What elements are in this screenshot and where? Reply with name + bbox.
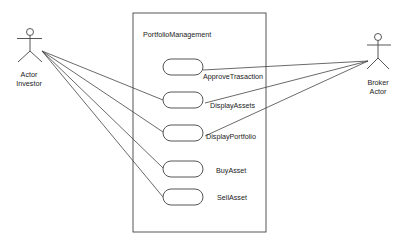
association-investor-display-assets (42, 51, 163, 100)
actor-broker-label-line2: Actor (370, 87, 387, 96)
actor-investor[interactable] (17, 29, 42, 63)
use-case-display-portfolio-shape (163, 125, 203, 141)
association-investor-buy (42, 51, 163, 168)
association-broker-display-assets (205, 61, 368, 103)
use-case-buy-label: BuyAsset (216, 166, 246, 175)
use-case-display-portfolio[interactable]: DisplayPortfolio (163, 125, 256, 141)
use-case-buy-shape (163, 161, 203, 177)
use-case-approve-shape (163, 59, 203, 75)
actor-broker[interactable] (367, 34, 391, 70)
use-case-display-assets-label: DisplayAssets (210, 101, 256, 110)
use-case-sell-shape (163, 189, 203, 205)
use-case-display-assets[interactable]: DisplayAssets (163, 92, 256, 110)
actor-broker-head-icon (375, 34, 382, 41)
actor-broker-label-line1: Broker (367, 78, 389, 87)
use-case-approve-label: ApproveTrasaction (203, 72, 263, 81)
association-investor-sell (42, 51, 163, 197)
use-case-buy[interactable]: BuyAsset (163, 161, 246, 177)
use-case-diagram: PortfolioManagement ApproveTrasaction Di… (0, 0, 402, 238)
investor-associations (42, 51, 163, 197)
actor-investor-head-icon (27, 29, 34, 36)
association-investor-display-portfolio (42, 51, 163, 132)
actor-broker-left-leg (367, 58, 378, 69)
association-broker-approve (203, 61, 368, 70)
actor-investor-label-line2: Investor (16, 79, 42, 88)
actor-investor-right-leg (30, 51, 42, 62)
use-case-display-assets-shape (163, 92, 203, 108)
actor-broker-right-leg (378, 58, 389, 69)
use-case-approve[interactable]: ApproveTrasaction (163, 59, 263, 81)
use-case-display-portfolio-label: DisplayPortfolio (206, 132, 256, 141)
system-label: PortfolioManagement (143, 30, 211, 39)
actor-investor-left-leg (18, 51, 30, 62)
use-case-sell-label: SellAsset (217, 193, 247, 202)
actor-investor-label-line1: Actor (21, 70, 38, 79)
use-case-sell[interactable]: SellAsset (163, 189, 247, 205)
